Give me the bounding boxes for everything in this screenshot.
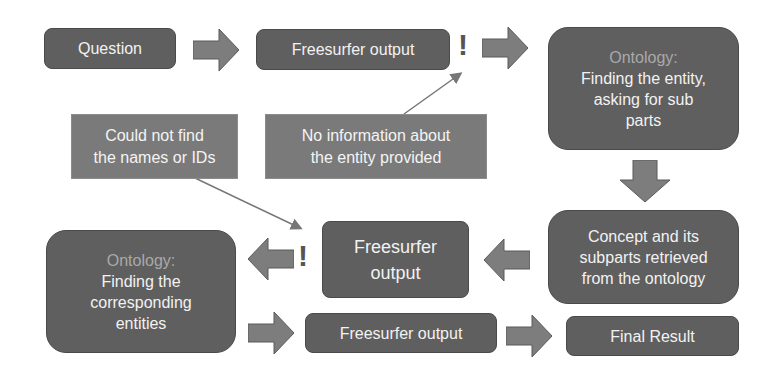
connector-could-not-find (195, 178, 300, 228)
freesurfer-output-bottom-label: Freesurfer output (340, 323, 463, 344)
text-line: No information about (302, 125, 451, 147)
text-line: the names or IDs (94, 147, 216, 169)
text-line: the entity provided (311, 147, 442, 169)
arrow-down-icon (620, 160, 670, 202)
arrow-right-icon (482, 27, 528, 69)
text-line: from the ontology (582, 268, 706, 289)
text-line: entities (116, 313, 167, 334)
callout-could-not-find: Could not find the names or IDs (71, 114, 238, 179)
question-box: Question (44, 28, 176, 69)
freesurfer-output-top-label: Freesurfer output (292, 39, 415, 60)
freesurfer-output-top-box: Freesurfer output (256, 29, 450, 70)
text-line: Freesurfer (354, 234, 437, 260)
arrow-left-icon (248, 238, 294, 280)
ontology-find-entity-box: Ontology: Finding the entity, asking for… (548, 27, 739, 150)
arrow-right-icon (193, 29, 239, 71)
text-line: asking for sub (594, 89, 694, 110)
arrow-left-icon (484, 239, 530, 281)
text-line: Finding the (101, 271, 180, 292)
callout-no-information: No information about the entity provided (265, 114, 487, 179)
text-line: output (370, 260, 420, 286)
final-result-label: Final Result (610, 326, 694, 347)
text-line: Finding the entity, (581, 68, 706, 89)
text-line: corresponding (90, 292, 191, 313)
freesurfer-output-mid-box: Freesurfer output (322, 221, 469, 298)
arrow-right-icon (506, 315, 552, 357)
question-label: Question (78, 38, 142, 59)
ontology-heading: Ontology: (107, 250, 175, 271)
freesurfer-output-bottom-box: Freesurfer output (305, 313, 497, 353)
ontology-heading: Ontology: (609, 47, 677, 68)
text-line: Concept and its (588, 226, 699, 247)
warning-exclamation-icon: ! (298, 241, 308, 271)
ontology-corresponding-entities-box: Ontology: Finding the corresponding enti… (46, 230, 236, 353)
arrow-right-icon (248, 312, 294, 354)
text-line: Could not find (105, 125, 204, 147)
warning-exclamation-icon: ! (458, 30, 468, 60)
text-line: subparts retrieved (579, 247, 707, 268)
text-line: parts (626, 110, 662, 131)
concept-retrieved-box: Concept and its subparts retrieved from … (548, 210, 739, 304)
final-result-box: Final Result (566, 316, 739, 356)
connector-no-information (404, 74, 460, 114)
